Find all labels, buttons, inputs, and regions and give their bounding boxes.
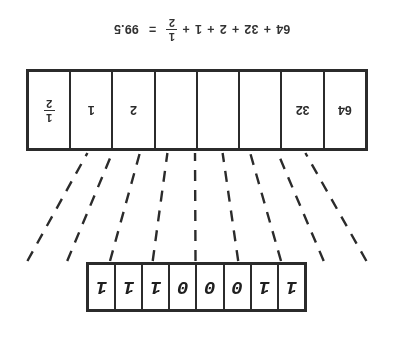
fraction-numerator: 1 xyxy=(46,112,52,124)
fraction-bar xyxy=(44,111,55,112)
binary-digit: 1 xyxy=(150,276,161,298)
place-cell-blank-1 xyxy=(238,72,280,148)
equation-plus-3: + xyxy=(207,22,215,36)
place-cell-one-half: 1 2 xyxy=(29,72,69,148)
equation-equals-sign: = xyxy=(149,22,157,36)
connector-line-3 xyxy=(250,153,281,261)
binary-place-value-figure: 64 + 32 + 2 + 1 + 1 2 = 99.5 64 32 2 1 1… xyxy=(0,0,404,345)
place-cell-label: 1 xyxy=(88,103,95,117)
place-cell-64: 64 xyxy=(323,72,365,148)
fraction-denominator: 2 xyxy=(46,99,52,111)
place-cell-blank-2 xyxy=(196,72,238,148)
binary-digit-cell-6: 1 xyxy=(141,265,168,309)
binary-digit-cell-7: 1 xyxy=(114,265,141,309)
binary-digit-cell-3: 0 xyxy=(223,265,250,309)
binary-digit: 0 xyxy=(231,276,242,298)
connector-line-8 xyxy=(67,153,112,261)
equation-fraction-one-half: 1 2 xyxy=(166,18,177,43)
binary-digit-cell-1: 1 xyxy=(277,265,304,309)
fraction-bar xyxy=(166,30,177,31)
place-cell-label: 64 xyxy=(338,103,352,117)
place-cell-label: 2 xyxy=(130,103,137,117)
place-cell-1: 1 xyxy=(69,72,111,148)
equation-term-64: 64 xyxy=(276,22,290,36)
connector-line-4 xyxy=(223,153,239,261)
equation-plus-4: + xyxy=(182,22,190,36)
binary-digit: 0 xyxy=(204,276,215,298)
connector-line-5 xyxy=(195,153,196,261)
place-cell-fraction: 1 2 xyxy=(44,99,55,124)
place-cell-2: 2 xyxy=(112,72,154,148)
equation-term-1: 1 xyxy=(195,22,202,36)
binary-digit-cell-4: 0 xyxy=(196,265,223,309)
equation-plus-1: + xyxy=(263,22,271,36)
place-value-row: 64 32 2 1 1 2 xyxy=(26,69,368,151)
equation-result: 99.5 xyxy=(114,22,139,36)
place-cell-blank-3 xyxy=(154,72,196,148)
place-cell-label: 32 xyxy=(296,103,310,117)
binary-digit-cell-5: 0 xyxy=(168,265,195,309)
binary-digit-cell-2: 1 xyxy=(250,265,277,309)
binary-digit: 0 xyxy=(177,276,188,298)
equation-term-32: 32 xyxy=(244,22,258,36)
connector-line-7 xyxy=(110,153,140,261)
connector-line-9 xyxy=(27,153,87,261)
binary-digit: 1 xyxy=(123,276,134,298)
equation-term-2: 2 xyxy=(220,22,227,36)
binary-digit: 1 xyxy=(96,276,107,298)
binary-digit-cell-8: 1 xyxy=(89,265,114,309)
binary-digit: 1 xyxy=(286,276,297,298)
equation-plus-2: + xyxy=(232,22,240,36)
fraction-numerator: 1 xyxy=(169,31,175,43)
connector-line-6 xyxy=(153,153,168,261)
connector-line-1 xyxy=(305,153,366,261)
fraction-denominator: 2 xyxy=(169,18,175,30)
equation-line: 64 + 32 + 2 + 1 + 1 2 = 99.5 xyxy=(0,8,404,50)
place-cell-32: 32 xyxy=(281,72,323,148)
binary-digits-row: 1 1 0 0 0 1 1 1 xyxy=(86,262,307,312)
binary-digit: 1 xyxy=(259,276,270,298)
connector-line-2 xyxy=(278,153,324,261)
